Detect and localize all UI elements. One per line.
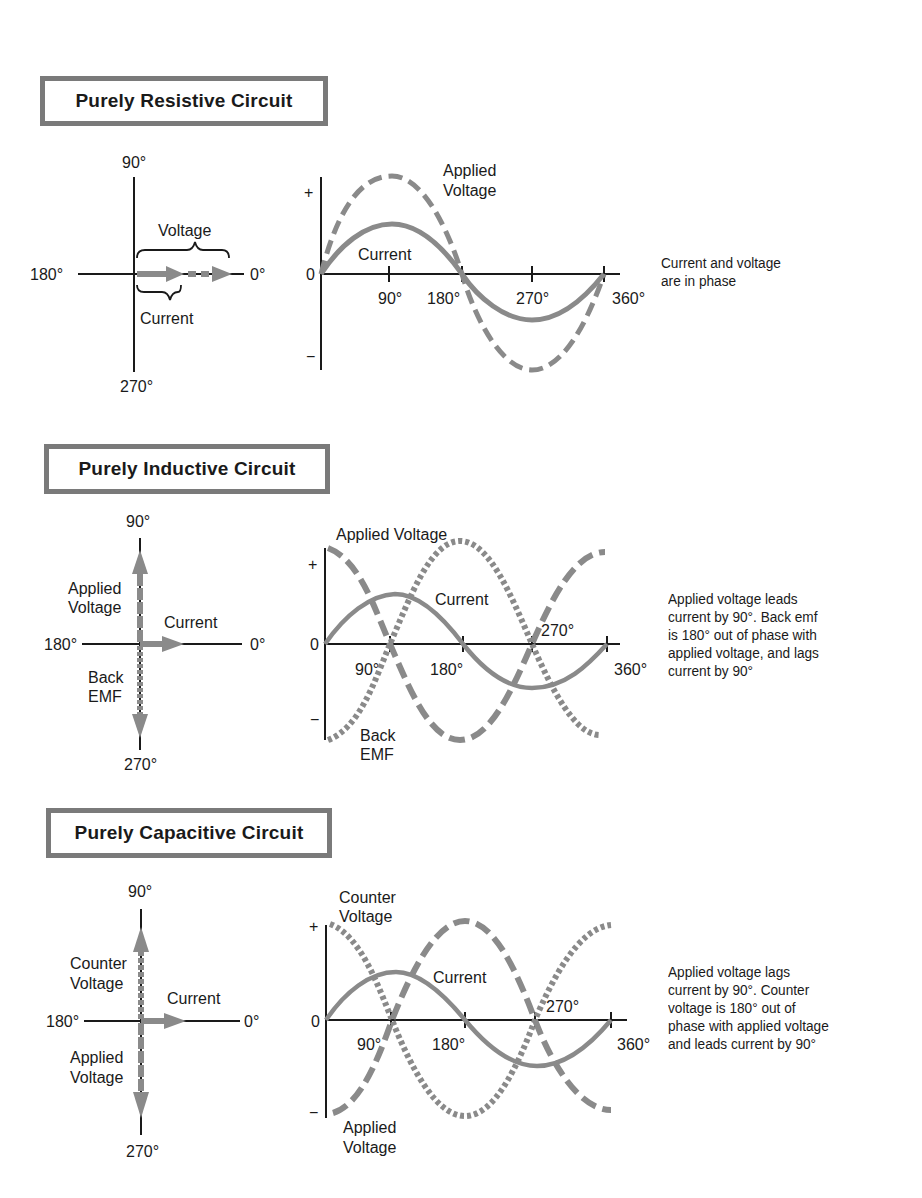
axis-label-0: 0°	[250, 266, 265, 283]
curve-current	[321, 224, 604, 320]
counter-voltage-arrow-icon	[133, 927, 149, 952]
curve-label-current: Current	[435, 591, 489, 608]
y-label-minus: −	[310, 711, 319, 728]
x-tick-180: 180°	[427, 290, 460, 307]
back-emf-arrow-icon	[132, 714, 148, 738]
phasor-resistive: 90° 180° 0° 270° Voltage Current	[30, 154, 265, 395]
phasor-label-back-line2: EMF	[88, 688, 122, 705]
x-tick-270: 270°	[546, 998, 579, 1015]
curve-label-counter-line2: Voltage	[339, 908, 392, 925]
curve-label-counter-line1: Counter	[339, 889, 397, 906]
x-tick-360: 360°	[612, 290, 645, 307]
curve-label-back-line1: Back	[360, 727, 397, 744]
x-tick-360: 360°	[617, 1036, 650, 1053]
curve-label-back-line2: EMF	[360, 746, 394, 763]
axis-label-180: 180°	[46, 1013, 79, 1030]
curve-applied-voltage	[333, 921, 611, 1113]
x-tick-180: 180°	[430, 661, 463, 678]
phasor-label-current: Current	[164, 614, 218, 631]
x-tick-270: 270°	[516, 290, 549, 307]
axis-label-270: 270°	[120, 378, 153, 395]
y-label-minus: −	[309, 1104, 318, 1121]
waveform-inductive: + 0 − 90° 180° 270° 360° Applied Voltage…	[308, 526, 647, 763]
curve-label-applied-line2: Voltage	[343, 1139, 396, 1156]
axis-label-180: 180°	[30, 266, 63, 283]
curve-label-applied: Applied Voltage	[336, 526, 447, 543]
current-arrow-icon	[164, 1013, 186, 1029]
phasor-label-current: Current	[167, 990, 221, 1007]
y-label-plus: +	[308, 556, 317, 573]
curve-label-current: Current	[433, 969, 487, 986]
phasor-label-applied-line1: Applied	[68, 580, 121, 597]
current-arrow-icon	[166, 266, 184, 282]
axis-label-0: 0°	[250, 636, 265, 653]
axis-label-90: 90°	[126, 513, 150, 530]
phasor-inductive: 90° 180° 0° 270° Applied Voltage Current…	[44, 513, 265, 773]
y-label-zero: 0	[306, 266, 315, 283]
voltage-arrow-icon	[212, 266, 232, 282]
phasor-label-counter-line1: Counter	[70, 955, 128, 972]
axis-label-180: 180°	[44, 636, 77, 653]
applied-voltage-arrow-icon	[132, 550, 148, 574]
axis-label-0: 0°	[244, 1013, 259, 1030]
x-tick-180: 180°	[432, 1036, 465, 1053]
phasor-capacitive: 90° 180° 0° 270° Counter Voltage Current…	[46, 883, 259, 1160]
curve-label-current: Current	[358, 246, 412, 263]
voltage-brace	[137, 242, 229, 258]
x-tick-270: 270°	[541, 622, 574, 639]
x-tick-90: 90°	[378, 290, 402, 307]
applied-voltage-arrow-icon	[133, 1092, 149, 1118]
y-label-plus: +	[309, 918, 318, 935]
phasor-label-back-line1: Back	[88, 669, 125, 686]
phasor-label-counter-line2: Voltage	[70, 975, 123, 992]
diagram-canvas: 90° 180° 0° 270° Voltage Current + 0 − 9…	[0, 0, 922, 1198]
axis-label-270: 270°	[124, 756, 157, 773]
x-tick-360: 360°	[614, 661, 647, 678]
y-label-zero: 0	[310, 636, 319, 653]
current-arrow-icon	[162, 636, 184, 652]
phasor-label-applied-line2: Voltage	[70, 1069, 123, 1086]
waveform-resistive: + 0 − 90° 180° 270° 360° Applied Voltage…	[304, 162, 645, 370]
phasor-label-applied-line1: Applied	[70, 1049, 123, 1066]
waveform-capacitive: + 0 − 90° 180° 270° 360° Counter Voltage…	[309, 889, 650, 1156]
current-brace	[137, 285, 181, 300]
phasor-label-current: Current	[140, 310, 194, 327]
x-tick-90: 90°	[355, 661, 379, 678]
axis-label-90: 90°	[128, 883, 152, 900]
y-label-plus: +	[304, 184, 313, 201]
phasor-label-applied-line2: Voltage	[68, 599, 121, 616]
y-label-minus: −	[306, 348, 315, 365]
curve-label-applied-line2: Voltage	[443, 182, 496, 199]
curve-label-applied-line1: Applied	[343, 1119, 396, 1136]
curve-label-applied-line1: Applied	[443, 162, 496, 179]
axis-label-90: 90°	[122, 154, 146, 171]
axis-label-270: 270°	[126, 1143, 159, 1160]
phasor-label-voltage: Voltage	[158, 222, 211, 239]
y-label-zero: 0	[311, 1013, 320, 1030]
